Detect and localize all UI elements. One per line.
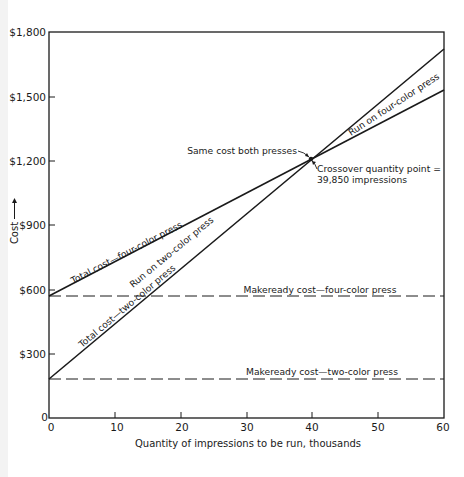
y-axis-title: Cost [9, 222, 20, 244]
y-tick-1800: $1,800 [9, 26, 46, 38]
y-tick-1200: $1,200 [9, 155, 46, 167]
x-tick-0: 0 [48, 421, 55, 433]
same-cost-label: Same cost both presses [187, 145, 297, 156]
makeready-four-color-label: Makeready cost—four-color press [244, 284, 397, 295]
x-tick-labels: 0 10 20 30 40 50 60 [48, 421, 450, 433]
x-tick-50: 50 [371, 421, 384, 433]
y-tick-300: $300 [19, 348, 46, 360]
crossover-label-line2: 39,850 impressions [317, 174, 407, 185]
x-tick-60: 60 [436, 421, 449, 433]
total-cost-two-color-line [49, 49, 444, 379]
y-tick-1500: $1,500 [9, 91, 46, 103]
x-axis [115, 412, 378, 418]
makeready-two-color-label: Makeready cost—two-color press [246, 366, 398, 377]
plot-frame [49, 32, 444, 418]
cost-chart: $1,800 $1,500 $1,200 $900 $600 $300 0 0 … [0, 0, 464, 477]
y-tick-600: $600 [19, 284, 46, 296]
x-tick-20: 20 [175, 421, 188, 433]
x-axis-title: Quantity of impressions to be run, thous… [135, 438, 361, 449]
x-tick-10: 10 [110, 421, 123, 433]
y-axis [49, 97, 55, 354]
y-tick-900: $900 [19, 219, 46, 231]
crossover-point [309, 157, 314, 162]
run-on-four-color-label: Run on four-color press [346, 70, 441, 137]
x-tick-40: 40 [305, 421, 318, 433]
crossover-label-line1: Crossover quantity point = [317, 163, 441, 174]
x-tick-30: 30 [240, 421, 253, 433]
